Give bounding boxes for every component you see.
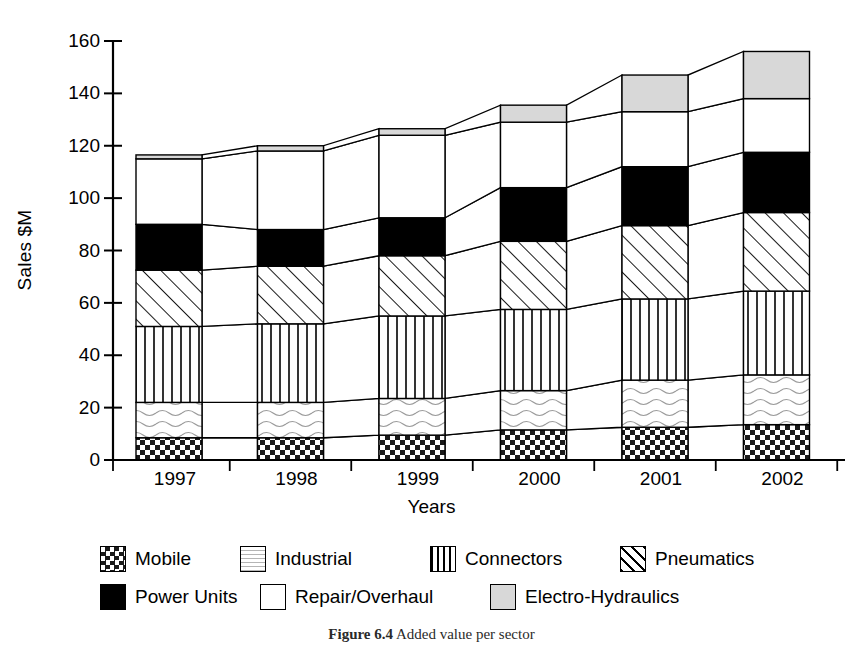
bar-segment: [136, 402, 202, 437]
connector-band: [202, 266, 258, 326]
bar-segment: [744, 213, 810, 292]
legend-swatch-icon: [100, 584, 126, 610]
legend-item[interactable]: Pneumatics: [620, 546, 754, 572]
connector-band: [324, 316, 380, 402]
bar-segment: [379, 256, 445, 316]
bar-group: [136, 155, 202, 460]
bar-segment: [379, 435, 445, 460]
legend-row-1: MobileIndustrialConnectorsPneumatics: [100, 540, 800, 578]
bar-segment: [379, 129, 445, 136]
bar-segment: [379, 135, 445, 217]
legend-item[interactable]: Industrial: [240, 546, 430, 572]
legend-item[interactable]: Connectors: [430, 546, 620, 572]
bar-segment: [744, 375, 810, 425]
bar-segment: [501, 309, 567, 390]
legend-item[interactable]: Power Units: [100, 584, 260, 610]
bar-segment: [622, 299, 688, 380]
bar-segment: [622, 167, 688, 226]
legend-swatch-icon: [100, 546, 126, 572]
figure-caption: Figure 6.4 Added value per sector: [0, 626, 863, 643]
bar-segment: [744, 51, 810, 98]
bar-segment: [744, 425, 810, 460]
figure-root: Sales $M 020406080100120140160 19: [0, 0, 863, 649]
bar-segment: [501, 105, 567, 122]
legend: MobileIndustrialConnectorsPneumatics Pow…: [100, 540, 800, 616]
bar-segment: [501, 188, 567, 242]
connector-band: [202, 324, 258, 403]
bar-segment: [501, 391, 567, 430]
legend-swatch-icon: [240, 546, 266, 572]
bar-segment: [744, 99, 810, 153]
connector-band: [202, 438, 258, 460]
y-tick-label: 160: [40, 30, 100, 52]
legend-label: Repair/Overhaul: [295, 586, 433, 608]
x-tick-label: 1997: [154, 468, 196, 490]
connector-band: [324, 135, 380, 229]
bar-segment: [136, 155, 202, 159]
bar-segment: [622, 75, 688, 112]
x-tick-label: 2000: [518, 468, 560, 490]
connector-band: [202, 224, 258, 270]
bar-segment: [136, 326, 202, 402]
legend-swatch-icon: [430, 546, 456, 572]
y-tick-label: 40: [40, 344, 100, 366]
bar-segment: [136, 224, 202, 270]
connector-band: [445, 309, 501, 398]
connector-band: [688, 291, 744, 380]
legend-label: Electro-Hydraulics: [525, 586, 679, 608]
bar-segment: [622, 380, 688, 427]
bar-group: [744, 51, 810, 460]
y-tick-label: 0: [40, 449, 100, 471]
bar-group: [258, 146, 324, 460]
y-tick-label: 60: [40, 292, 100, 314]
legend-swatch-icon: [620, 546, 646, 572]
x-tick-label: 2001: [640, 468, 682, 490]
legend-swatch-icon: [490, 584, 516, 610]
bar-segment: [258, 266, 324, 324]
bar-segment: [258, 402, 324, 437]
connector-band: [688, 375, 744, 427]
bar-segment: [622, 112, 688, 167]
x-axis-title: Years: [0, 496, 863, 518]
bar-segment: [258, 438, 324, 460]
connector-band: [688, 213, 744, 299]
legend-item[interactable]: Repair/Overhaul: [260, 584, 490, 610]
connector-band: [324, 435, 380, 460]
y-tick-label: 140: [40, 82, 100, 104]
stacked-bar-chart: [0, 0, 863, 520]
legend-swatch-icon: [260, 584, 286, 610]
bar-segment: [258, 324, 324, 403]
legend-label: Pneumatics: [655, 548, 754, 570]
bar-segment: [744, 152, 810, 212]
connector-band: [567, 299, 623, 391]
bar-segment: [136, 270, 202, 326]
bar-segment: [744, 291, 810, 375]
y-tick-label: 80: [40, 240, 100, 262]
x-tick-label: 1998: [275, 468, 317, 490]
y-tick-label: 20: [40, 397, 100, 419]
y-tick-label: 120: [40, 135, 100, 157]
bar-segment: [379, 398, 445, 435]
connector-band: [202, 402, 258, 437]
bar-segment: [258, 146, 324, 151]
bar-segment: [136, 159, 202, 224]
bar-segment: [622, 226, 688, 299]
bar-segment: [501, 122, 567, 187]
legend-label: Connectors: [465, 548, 562, 570]
connector-band: [567, 427, 623, 460]
legend-label: Mobile: [135, 548, 191, 570]
legend-label: Power Units: [135, 586, 237, 608]
x-tick-label: 1999: [397, 468, 439, 490]
bar-segment: [258, 230, 324, 267]
legend-item[interactable]: Mobile: [100, 546, 240, 572]
bar-group: [501, 105, 567, 460]
bar-segment: [501, 430, 567, 460]
connector-band: [202, 151, 258, 230]
legend-item[interactable]: Electro-Hydraulics: [490, 584, 679, 610]
bar-segment: [622, 427, 688, 460]
caption-text: Added value per sector: [396, 626, 535, 642]
connector-band: [324, 398, 380, 437]
connector-band: [324, 256, 380, 324]
bar-segment: [136, 438, 202, 460]
legend-label: Industrial: [275, 548, 352, 570]
